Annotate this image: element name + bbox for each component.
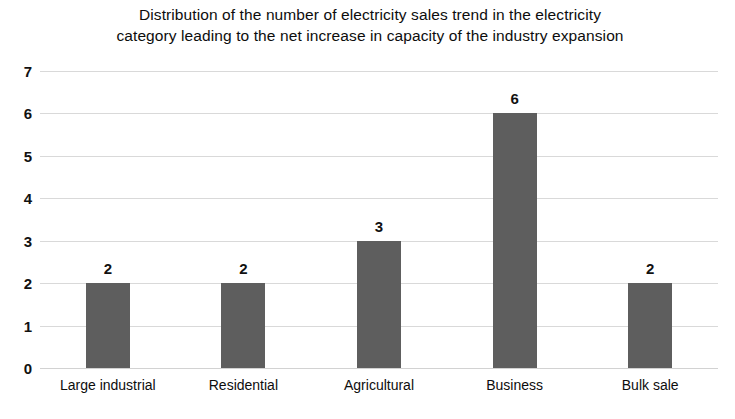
bar-value-label: 2 [104, 261, 112, 276]
y-tick-label-0: 0 [0, 361, 32, 376]
bar[interactable] [86, 283, 130, 368]
bar-slot: 6 [447, 71, 583, 368]
bar[interactable] [221, 283, 265, 368]
y-tick-label-2: 2 [0, 276, 32, 291]
x-tick-label: Residential [209, 375, 278, 395]
bar-slot: 2 [582, 71, 718, 368]
bar-value-label: 2 [646, 261, 654, 276]
chart-title: Distribution of the number of electricit… [40, 4, 700, 46]
bar[interactable] [493, 113, 537, 368]
x-tick-label: Bulk sale [622, 375, 679, 395]
bar-chart: Distribution of the number of electricit… [0, 0, 735, 419]
x-axis: Large industrialResidentialAgriculturalB… [40, 375, 718, 401]
x-tick-label: Large industrial [60, 375, 156, 395]
bar-value-label: 6 [510, 91, 518, 106]
x-tick-label: Agricultural [344, 375, 414, 395]
bar-slot: 2 [40, 71, 176, 368]
y-tick-label-1: 1 [0, 318, 32, 333]
y-tick-label-6: 6 [0, 106, 32, 121]
bar[interactable] [628, 283, 672, 368]
y-tick-label-3: 3 [0, 233, 32, 248]
y-axis: 76543210 [0, 71, 32, 368]
y-tick-label-5: 5 [0, 148, 32, 163]
y-tick-label-4: 4 [0, 191, 32, 206]
bar[interactable] [357, 241, 401, 368]
y-tick-label-7: 7 [0, 64, 32, 79]
plot-area: 22362 [40, 71, 718, 368]
bar-slot: 2 [176, 71, 312, 368]
x-tick-label: Business [486, 375, 543, 395]
chart-title-line-2: category leading to the net increase in … [40, 25, 700, 46]
chart-title-line-1: Distribution of the number of electricit… [40, 4, 700, 25]
bar-slot: 3 [311, 71, 447, 368]
gridline-0 [40, 368, 718, 369]
bar-value-label: 2 [239, 261, 247, 276]
bar-value-label: 3 [375, 219, 383, 234]
